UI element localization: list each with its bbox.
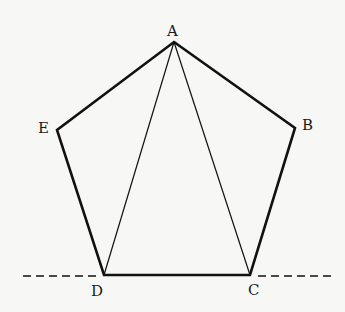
vertex-label-c: C bbox=[248, 281, 259, 299]
vertex-label-a: A bbox=[166, 22, 178, 40]
vertex-label-d: D bbox=[91, 282, 103, 300]
vertex-label-b: B bbox=[302, 116, 313, 134]
pentagon-diagram: A B C D E bbox=[0, 0, 345, 312]
diagonal-AC bbox=[174, 42, 250, 275]
vertex-label-e: E bbox=[38, 119, 49, 137]
diagonal-AD bbox=[104, 42, 174, 275]
pentagon-outline bbox=[57, 42, 295, 275]
